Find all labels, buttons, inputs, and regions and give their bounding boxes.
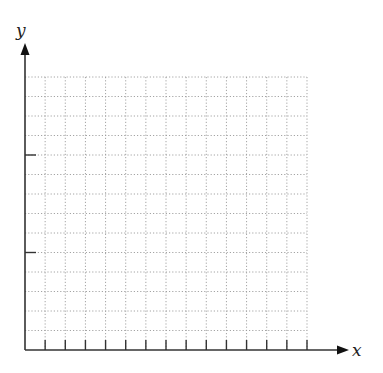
x-axis-ticks (45, 340, 307, 350)
y-axis-label: y (15, 20, 26, 40)
x-axis-label: x (352, 340, 362, 360)
dotted-grid (25, 77, 307, 350)
x-axis-arrow-icon (337, 346, 349, 355)
coordinate-grid-figure: x y (0, 0, 383, 373)
y-axis-ticks (25, 155, 36, 253)
y-axis-arrow-icon (21, 43, 30, 55)
